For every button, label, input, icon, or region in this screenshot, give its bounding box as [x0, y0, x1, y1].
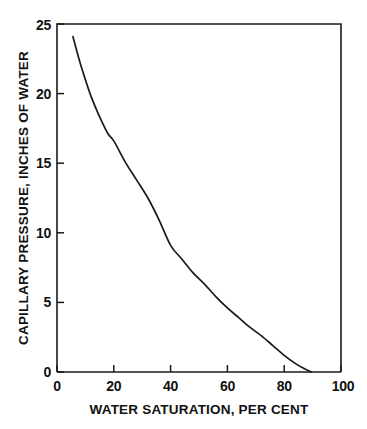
chart-figure: 25 20 15 10 5 0 0 20 40 60 80 100 WATER …	[0, 0, 367, 429]
x-tick-label-80: 80	[277, 378, 292, 394]
y-tick-label-10: 10	[36, 225, 51, 241]
y-tick-label-15: 15	[36, 155, 51, 171]
capillary-pressure-chart: 25 20 15 10 5 0 0 20 40 60 80 100 WATER …	[0, 0, 367, 429]
x-tick-label-40: 40	[163, 378, 178, 394]
y-tick-label-5: 5	[44, 294, 52, 310]
data-series-line	[73, 37, 311, 372]
x-axis-title: WATER SATURATION, PER CENT	[90, 402, 309, 417]
x-tick-label-0: 0	[53, 378, 61, 394]
y-tick-label-25: 25	[36, 17, 51, 33]
y-tick-label-0: 0	[44, 364, 52, 380]
plot-frame	[57, 24, 341, 372]
x-tick-label-100: 100	[332, 378, 355, 394]
y-axis-title: CAPILLARY PRESSURE, INCHES OF WATER	[16, 51, 31, 345]
x-tick-label-20: 20	[106, 378, 121, 394]
y-tick-label-20: 20	[36, 86, 51, 102]
x-tick-label-60: 60	[220, 378, 235, 394]
y-tick-marks	[57, 24, 64, 372]
